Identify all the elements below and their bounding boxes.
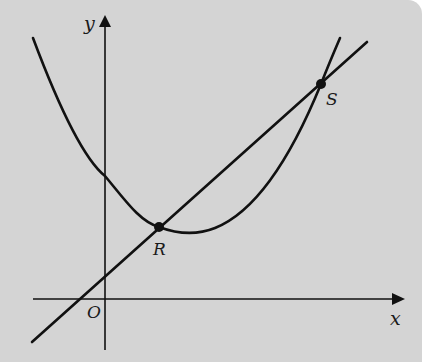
x-axis-label: x: [390, 307, 401, 329]
straight-line: [32, 42, 367, 342]
point-s-marker: [316, 79, 326, 89]
point-r-label: R: [152, 239, 166, 259]
graph-canvas: y x O R S: [0, 0, 434, 362]
point-r-marker: [154, 222, 164, 232]
origin-label: O: [87, 302, 101, 322]
y-axis-arrow-icon: [99, 15, 111, 27]
x-axis-arrow-icon: [392, 293, 405, 305]
y-axis-label: y: [83, 12, 95, 34]
point-s-label: S: [326, 89, 338, 109]
